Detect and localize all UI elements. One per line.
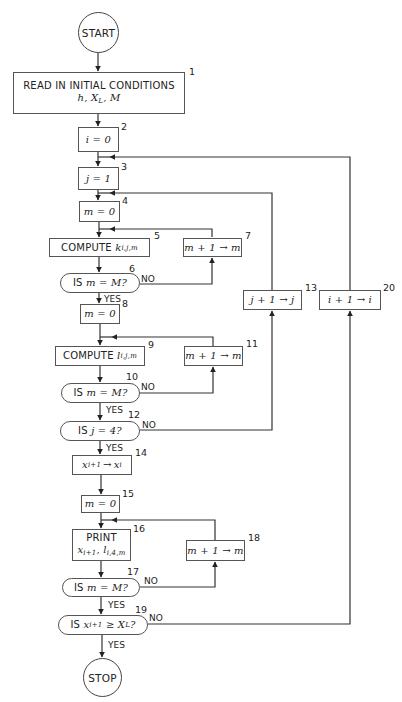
increment-m-box-1: m + 1 → m: [183, 238, 242, 257]
decision-m-equals-M-2: IS m = M?: [61, 383, 140, 403]
init-i-box: i = 0: [78, 127, 119, 152]
increment-j-text: j + 1 → j: [251, 294, 295, 306]
compute-k-box: COMPUTE ki,j,m: [49, 238, 150, 257]
step-number-11: 11: [246, 338, 258, 349]
start-label: START: [82, 27, 115, 39]
read-conditions-vars: h, XL, M: [78, 92, 121, 107]
init-m-text-1: m = 0: [84, 206, 116, 218]
decision-m-equals-M-1: IS m = M?: [60, 273, 140, 293]
increment-i-box: i + 1 → i: [319, 290, 381, 310]
stop-label: STOP: [88, 672, 116, 684]
compute-k-subscript: i,j,m: [121, 242, 138, 254]
step-number-13: 13: [305, 282, 317, 293]
step-number-10: 10: [126, 371, 138, 382]
init-m-box-1: m = 0: [79, 201, 120, 222]
no-label-12: NO: [142, 420, 156, 430]
increment-i-text: i + 1 → i: [328, 294, 372, 306]
yes-label-12: YES: [106, 443, 123, 453]
print-sub-x: i+1: [83, 549, 96, 557]
decision-17-text: m = M?: [87, 582, 128, 594]
increment-m-box-3: m + 1 → m: [186, 540, 245, 561]
no-label-6: NO: [141, 274, 155, 284]
step-number-20: 20: [383, 282, 395, 293]
decision-10-text: m = M?: [87, 387, 128, 399]
step-number-6: 6: [129, 263, 135, 274]
init-i-text: i = 0: [86, 134, 111, 146]
decision-6-text: m = M?: [86, 277, 127, 289]
increment-m-text-2: m + 1 → m: [185, 350, 242, 362]
step-number-15: 15: [122, 488, 134, 499]
print-sub-l: i,4,m: [107, 549, 126, 557]
step-number-17: 17: [127, 566, 139, 577]
decision-j-equals-4: IS j = 4?: [60, 421, 140, 441]
init-m-box-2: m = 0: [80, 304, 120, 324]
step-number-4: 4: [122, 195, 128, 206]
step-number-2: 2: [121, 121, 127, 132]
compute-k-prefix: COMPUTE: [61, 242, 112, 254]
step-number-9: 9: [148, 339, 154, 350]
sep: ,: [84, 92, 91, 103]
step-number-14: 14: [135, 447, 147, 458]
decision-12-text: j = 4?: [91, 425, 122, 437]
increment-m-box-2: m + 1 → m: [184, 346, 243, 366]
yes-label-10: YES: [106, 405, 123, 415]
step-number-3: 3: [121, 161, 127, 172]
no-label-17: NO: [144, 576, 158, 586]
yes-label-17: YES: [108, 600, 125, 610]
advance-x-arrow: →: [103, 459, 112, 471]
init-m-text-2: m = 0: [84, 308, 116, 320]
step-number-1: 1: [189, 66, 195, 77]
decision-19-prefix: IS: [70, 619, 80, 631]
increment-j-box: j + 1 → j: [243, 290, 302, 310]
no-label-19: NO: [149, 613, 163, 623]
start-terminal: START: [78, 12, 119, 53]
decision-19-rel: ≥: [103, 619, 118, 631]
init-m-text-3: m = 0: [85, 498, 117, 510]
advance-x-sub: i+1: [88, 459, 101, 471]
stop-terminal: STOP: [83, 658, 122, 697]
step-number-8: 8: [122, 298, 128, 309]
sep: ,: [103, 92, 110, 103]
decision-6-prefix: IS: [73, 277, 83, 289]
step-number-18: 18: [248, 532, 260, 543]
step-number-12: 12: [128, 409, 140, 420]
print-vars: xi+1, li,4,m: [78, 544, 126, 559]
increment-m-text-1: m + 1 → m: [184, 242, 241, 254]
read-initial-conditions-box: READ IN INITIAL CONDITIONS h, XL, M: [13, 72, 185, 114]
step-number-16: 16: [133, 523, 145, 534]
compute-l-box: COMPUTE li,j,m: [55, 346, 145, 366]
print-label: PRINT: [86, 532, 117, 544]
init-m-box-3: m = 0: [81, 495, 120, 513]
yes-label-6: YES: [104, 294, 121, 304]
var-m: M: [110, 92, 120, 103]
decision-m-equals-M-3: IS m = M?: [62, 578, 140, 597]
step-number-7: 7: [245, 230, 251, 241]
step-number-19: 19: [135, 604, 147, 615]
decision-19-sub: i+1: [89, 619, 102, 631]
decision-17-prefix: IS: [74, 582, 84, 594]
compute-l-prefix: COMPUTE: [63, 350, 114, 362]
decision-12-prefix: IS: [78, 425, 88, 437]
decision-x-ge-XL: IS xi+1 ≥ XL?: [58, 615, 148, 635]
init-j-text: j = 1: [86, 173, 111, 185]
advance-x-box: xi+1→xi: [72, 455, 132, 475]
read-conditions-text: READ IN INITIAL CONDITIONS: [23, 80, 175, 92]
no-label-10: NO: [141, 382, 155, 392]
yes-label-19: YES: [108, 640, 125, 650]
compute-l-subscript: i,j,m: [120, 350, 137, 362]
init-j-box: j = 1: [78, 167, 119, 190]
increment-m-text-3: m + 1 → m: [187, 545, 244, 557]
step-number-5: 5: [154, 230, 160, 241]
decision-19-suffix: ?: [130, 619, 136, 631]
print-box: PRINT xi+1, li,4,m: [72, 529, 131, 561]
advance-x-sub2: i: [120, 459, 122, 471]
decision-10-prefix: IS: [73, 387, 83, 399]
